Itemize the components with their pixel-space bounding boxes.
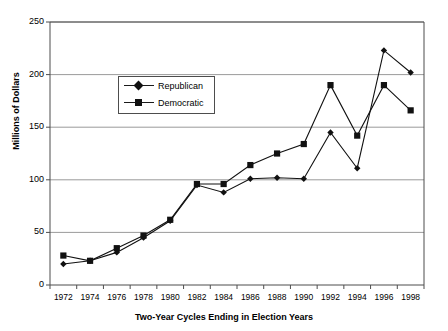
y-tick-label: 100	[10, 174, 44, 184]
data-point-marker	[301, 141, 307, 147]
y-tick-label: 150	[10, 121, 44, 131]
legend-item: Democratic	[119, 94, 214, 111]
x-tick-label: 1998	[391, 292, 431, 302]
series-line-republican	[63, 50, 410, 264]
y-tick-label: 200	[10, 69, 44, 79]
data-point-marker	[247, 162, 253, 168]
data-point-marker	[87, 258, 93, 264]
square-marker-icon	[124, 97, 154, 109]
y-tick-label: 50	[10, 226, 44, 236]
data-point-marker	[247, 176, 253, 182]
data-point-marker	[194, 181, 200, 187]
y-tick-label: 250	[10, 16, 44, 26]
data-point-marker	[327, 82, 333, 88]
data-point-marker	[114, 245, 120, 251]
data-point-marker	[274, 150, 280, 156]
data-point-marker	[301, 176, 307, 182]
chart-legend: RepublicanDemocratic	[118, 76, 215, 114]
x-axis-title: Two-Year Cycles Ending in Election Years	[0, 312, 448, 322]
y-tick-label: 0	[10, 279, 44, 289]
legend-item-label: Republican	[158, 81, 203, 91]
data-point-marker	[60, 252, 66, 258]
chart-figure: Millions of Dollars 050100150200250 1972…	[0, 0, 448, 331]
legend-item: Republican	[119, 77, 214, 94]
data-point-marker	[140, 232, 146, 238]
data-point-marker	[354, 133, 360, 139]
series-line-democratic	[63, 85, 410, 261]
data-point-marker	[221, 181, 227, 187]
data-point-marker	[408, 107, 414, 113]
diamond-marker-icon	[124, 80, 154, 92]
chart-plot-area	[0, 0, 448, 331]
data-point-marker	[167, 217, 173, 223]
data-point-marker	[381, 82, 387, 88]
data-point-marker	[60, 261, 66, 267]
data-point-marker	[220, 189, 226, 195]
legend-item-label: Democratic	[158, 98, 204, 108]
